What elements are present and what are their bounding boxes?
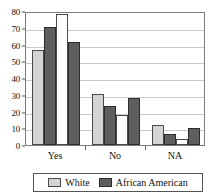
bar	[68, 42, 80, 145]
x-tick-label: Yes	[48, 150, 63, 162]
chart-legend: WhiteAfrican American	[33, 173, 203, 192]
x-axis: YesNoNA	[25, 146, 205, 163]
bar-chart: 01020304050607080 YesNoNA WhiteAfrican A…	[0, 0, 209, 194]
x-group-separator	[145, 146, 146, 150]
bar	[104, 106, 116, 145]
y-tick-label: 80	[11, 8, 20, 17]
plot-area: 01020304050607080	[0, 0, 209, 163]
y-tick-label: 20	[11, 108, 20, 117]
x-tick-label: No	[109, 150, 121, 162]
legend-label: African American	[116, 177, 188, 188]
y-tick-label: 70	[11, 24, 20, 33]
bar	[176, 139, 188, 145]
y-tick-label: 50	[11, 58, 20, 67]
bar	[152, 125, 164, 145]
plot-frame	[25, 12, 205, 146]
bar	[32, 50, 44, 145]
y-tick-label: 30	[11, 91, 20, 100]
y-tick-label: 0	[16, 142, 20, 151]
y-tick-label: 60	[11, 41, 20, 50]
y-tick-label: 40	[11, 75, 20, 84]
legend-entry: White	[48, 177, 89, 188]
bar	[56, 14, 68, 145]
bar	[164, 134, 176, 145]
x-tick-label: NA	[168, 150, 182, 162]
legend-entry: African American	[99, 177, 188, 188]
bar	[128, 98, 140, 145]
bars-layer	[26, 13, 204, 145]
legend-label: White	[65, 177, 89, 188]
y-axis: 01020304050607080	[0, 12, 22, 146]
bar	[116, 115, 128, 145]
bar	[92, 94, 104, 145]
bar	[44, 27, 56, 145]
legend-swatch-icon	[48, 178, 61, 187]
legend-swatch-icon	[99, 178, 112, 187]
y-tick-label: 10	[11, 125, 20, 134]
x-group-separator	[85, 146, 86, 150]
bar	[188, 128, 200, 145]
